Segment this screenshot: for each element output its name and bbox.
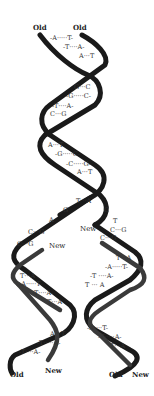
unpaired-base: A [49, 216, 54, 224]
base-pair: C···G [28, 228, 44, 236]
unpaired-base: T [113, 217, 117, 225]
unpaired-base: C [104, 206, 109, 214]
unpaired-base: G [63, 206, 68, 214]
base-pair: -G·····C- [66, 92, 91, 100]
base-pair: T···A [110, 342, 125, 350]
base-pair: -A·····T- [105, 263, 128, 271]
label-bottom-right-old: Old [109, 370, 123, 379]
base-pair: A···T [79, 52, 94, 60]
base-pair: -T····A- [32, 289, 53, 297]
label-new-left-fork: New [49, 242, 65, 250]
base-pair: -T·····A- [98, 333, 122, 341]
base-pair: A···T [48, 141, 63, 149]
base-pair: -T····A- [63, 43, 84, 51]
label-bottom-left-new: New [45, 366, 62, 375]
base-pair: -T····A- [52, 102, 73, 110]
base-pair: C···G [50, 110, 66, 118]
base-pair: T···A [20, 272, 35, 280]
base-pair: -T·····A- [37, 339, 61, 347]
base-pair: A···T [77, 168, 92, 176]
base-pair: -T ····A- [90, 272, 114, 280]
base-pair: -A·····T- [19, 280, 42, 288]
base-pair: -A·····T- [50, 34, 73, 42]
label-top-left-old: Old [33, 23, 47, 32]
base-pair: T···A [116, 254, 131, 262]
base-pair: -C·····G- [66, 160, 91, 168]
label-top-right-old: Old [73, 23, 87, 32]
base-pair: -G·····C- [55, 150, 80, 158]
base-pair: -A····T- [87, 324, 108, 332]
base-pair: T···A [47, 298, 62, 306]
label-bottom-left-old: Old [10, 370, 24, 379]
base-pair: G···C [74, 83, 90, 91]
base-pair: C···G [100, 234, 116, 242]
base-pair: T···A [76, 197, 91, 205]
base-pair: T ··· A [85, 281, 104, 289]
base-pair: C···G [17, 240, 33, 248]
base-pair: -T····A- [19, 348, 40, 356]
base-pair: C···G [110, 226, 126, 234]
base-pair: A···T [50, 330, 65, 338]
old-strand-right [42, 35, 106, 215]
label-bottom-right-new: New [132, 370, 149, 379]
label-new-right-fork: New [80, 225, 96, 233]
